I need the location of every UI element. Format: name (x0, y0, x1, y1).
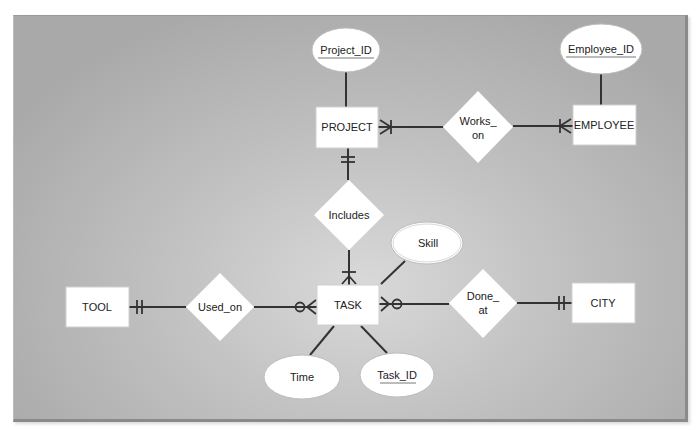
relationship-label-line1: Works_ (459, 115, 497, 127)
attribute-label: Task_ID (377, 369, 417, 381)
entity-label: CITY (590, 297, 616, 309)
relationship-used-on[interactable]: Used_on (186, 273, 254, 341)
relationship-label: Includes (329, 209, 370, 221)
attribute-label: Time (290, 371, 314, 383)
entity-city[interactable]: CITY (572, 283, 635, 323)
attribute-time[interactable]: Time (264, 355, 340, 399)
connector-task-time (310, 326, 334, 355)
entity-label: TOOL (82, 301, 112, 313)
entity-label: PROJECT (321, 121, 373, 133)
relationship-includes[interactable]: Includes (314, 180, 384, 250)
attribute-project-id[interactable]: Project_ID (312, 28, 380, 72)
attribute-label: Employee_ID (568, 43, 634, 55)
entity-employee[interactable]: EMPLOYEE (573, 105, 636, 145)
attribute-label: Skill (418, 237, 438, 249)
relationship-label-line1: Done_ (467, 290, 500, 302)
relationship-label-line2: on (472, 129, 484, 141)
attribute-employee-id[interactable]: Employee_ID (560, 24, 642, 74)
entity-label: TASK (334, 299, 363, 311)
er-diagram: Project_ID Employee_ID Skill Time Task_I… (0, 0, 700, 430)
entity-tool[interactable]: TOOL (66, 287, 129, 327)
entity-project[interactable]: PROJECT (316, 107, 378, 148)
attribute-task-id[interactable]: Task_ID (360, 353, 434, 397)
connector-task-taskid (361, 326, 387, 353)
attribute-label: Project_ID (320, 44, 371, 56)
relationship-label: Used_on (198, 301, 242, 313)
entity-label: EMPLOYEE (574, 119, 635, 131)
relationship-label-line2: at (478, 304, 487, 316)
relationship-works-on[interactable]: Works_ on (443, 91, 513, 163)
relationship-done-at[interactable]: Done_ at (449, 269, 517, 338)
entity-task[interactable]: TASK (317, 285, 379, 325)
attribute-skill[interactable]: Skill (391, 222, 463, 264)
connector-task-skill (381, 261, 405, 284)
